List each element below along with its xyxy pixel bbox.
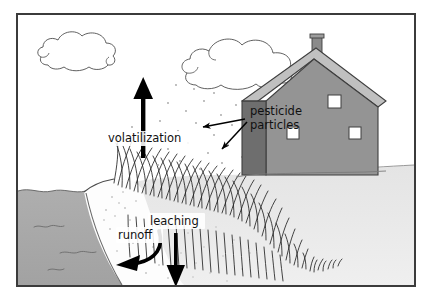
label-leaching-group: leaching (148, 213, 205, 229)
diagram-frame: volatilization pesticide particles leach… (16, 13, 416, 287)
house-window-right (349, 127, 361, 139)
pesticide-movement-illustration: volatilization pesticide particles leach… (18, 15, 414, 285)
label-pesticide-particles-line2: particles (250, 118, 299, 132)
label-runoff-group: runoff (116, 227, 163, 243)
label-runoff: runoff (118, 228, 153, 242)
house-window-upper (328, 95, 341, 108)
label-pesticide-particles-group: pesticide particles (250, 104, 302, 132)
label-leaching: leaching (150, 214, 199, 228)
label-pesticide-particles-line1: pesticide (250, 104, 302, 118)
label-volatilization-group: volatilization (106, 131, 190, 146)
diagram-root: volatilization pesticide particles leach… (0, 0, 433, 301)
label-volatilization: volatilization (108, 131, 181, 145)
